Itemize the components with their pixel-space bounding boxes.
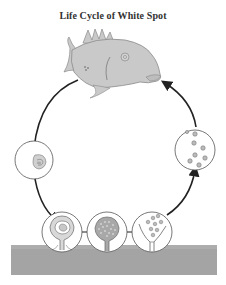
life-cycle-diagram — [0, 0, 226, 285]
arrow-fish-to-trophont — [34, 80, 78, 148]
cycle-arrows — [34, 80, 196, 220]
trophont-icon — [15, 141, 53, 179]
fish-icon — [64, 29, 161, 98]
tomites-icon — [175, 130, 215, 170]
cyst-icon — [42, 212, 82, 252]
bursting-cyst-icon — [132, 212, 172, 252]
arrow-cyst-to-tomites — [167, 170, 195, 215]
arrow-trophont-to-cyst — [34, 172, 56, 220]
arrow-tomites-to-fish — [165, 83, 196, 127]
dividing-cyst-icon — [87, 212, 127, 252]
